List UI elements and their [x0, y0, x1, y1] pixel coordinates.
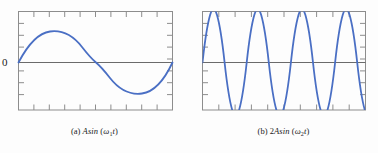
plot-panel-a: 0 (a) Asin (ω1t) — [0, 0, 189, 153]
plot-panel-b: 0 (b) 2Asin (ω2t) — [189, 0, 378, 153]
caption-a-subscript: 1 — [109, 130, 112, 137]
caption-a: (a) Asin (ω1t) — [0, 126, 189, 136]
caption-a-function: sin — [88, 126, 98, 136]
caption-b: (b) 2Asin (ω2t) — [189, 126, 378, 136]
caption-b-prefix: (b) — [258, 126, 268, 136]
caption-b-subscript: 2 — [301, 130, 304, 137]
caption-b-variable: t — [304, 126, 306, 136]
plot-a-zero-label: 0 — [2, 57, 8, 68]
caption-b-omega: ω — [295, 126, 301, 136]
plot-a-frame — [19, 12, 173, 111]
figure-container: 0 (a) Asin (ω1t) — [0, 0, 378, 153]
caption-b-amplitude: 2A — [270, 126, 280, 136]
caption-b-function: sin — [279, 126, 289, 136]
plot-b-frame — [203, 12, 366, 111]
